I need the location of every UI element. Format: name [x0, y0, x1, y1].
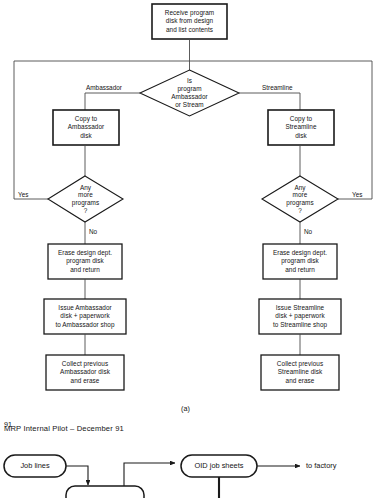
edge-decision-to-right-copy [239, 93, 300, 110]
bottom-partial-node-shape [66, 486, 144, 498]
left-issue-box-shape [44, 299, 126, 334]
flowchart-figure: Receive program disk from design and lis… [0, 0, 385, 498]
branch-label-streamline: Streamline [262, 84, 293, 92]
right-copy-box-shape [268, 110, 334, 145]
right-collect-box-shape [261, 355, 339, 390]
right-loop-yes-label: Yes [352, 191, 362, 199]
start-box-shape [152, 4, 227, 39]
left-loop-no-label: No [89, 228, 97, 236]
figure-caption: (a) [181, 404, 190, 413]
edge-job-lines-down [66, 466, 88, 485]
left-collect-box-shape [46, 355, 124, 390]
edge-decision-to-left-copy [85, 93, 140, 110]
right-loop-no-label: No [304, 228, 312, 236]
left-loop-decision-shape [48, 176, 123, 222]
right-erase-box-shape [263, 244, 337, 279]
left-erase-box-shape [48, 244, 122, 279]
left-loop-yes-label: Yes [18, 191, 28, 199]
right-loop-decision-shape [262, 176, 338, 222]
decision-main-shape [140, 70, 239, 116]
to-factory-label: to factory [306, 461, 336, 470]
oid-job-sheets-label: OID job sheets [181, 461, 257, 470]
job-lines-label: Job lines [4, 461, 66, 470]
lower-section-title: MRP Internal Pilot – December 91 [4, 424, 124, 433]
right-issue-box-shape [259, 299, 341, 334]
left-copy-box-shape [53, 110, 119, 145]
branch-label-ambassador: Ambassador [86, 84, 122, 92]
